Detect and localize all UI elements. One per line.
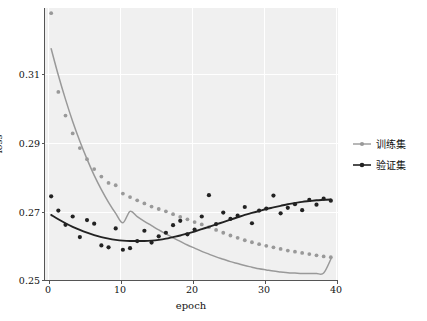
data-point [92, 167, 96, 171]
data-point [49, 194, 53, 198]
legend-label-validation: 验证集 [376, 157, 406, 172]
data-point [164, 231, 168, 235]
data-point [185, 232, 189, 236]
data-point [329, 255, 333, 259]
data-point [236, 236, 240, 240]
data-point [250, 221, 254, 225]
data-point [150, 205, 154, 209]
x-tick-label: 40 [330, 284, 342, 295]
data-point [322, 255, 326, 259]
data-point [157, 234, 161, 238]
data-point [64, 114, 68, 118]
data-point [99, 175, 103, 179]
data-point [142, 202, 146, 206]
data-point [236, 214, 240, 218]
data-point [135, 239, 139, 243]
data-point [300, 208, 304, 212]
data-point [250, 240, 254, 244]
trend-line [51, 49, 331, 274]
data-point [178, 219, 182, 223]
x-tick-label: 10 [114, 284, 126, 295]
data-point [329, 199, 333, 203]
data-point [221, 210, 225, 214]
trend-line [51, 200, 331, 242]
data-point [286, 249, 290, 253]
data-point [78, 146, 82, 150]
legend-item-train: 训练集 [352, 136, 406, 151]
data-point [314, 203, 318, 207]
data-point [49, 11, 53, 15]
data-point [157, 207, 161, 211]
data-point [171, 223, 175, 227]
data-point [106, 245, 110, 249]
x-tick-label: 0 [45, 284, 51, 295]
legend-swatch-validation-icon [352, 160, 372, 170]
data-point [307, 198, 311, 202]
data-point [315, 253, 319, 257]
data-point [279, 247, 283, 251]
legend-item-validation: 验证集 [352, 157, 406, 172]
data-point [271, 193, 275, 197]
data-point [264, 244, 268, 248]
y-tick-label: 0.25 [0, 275, 40, 286]
data-point [286, 206, 290, 210]
data-point [56, 208, 60, 212]
data-point [149, 241, 153, 245]
x-axis-label: epoch [176, 300, 206, 311]
data-point [78, 235, 82, 239]
data-point [171, 212, 175, 216]
data-point [128, 195, 132, 199]
data-point [228, 217, 232, 221]
data-point [121, 192, 125, 196]
chart-legend: 训练集 验证集 [352, 136, 406, 172]
data-point [114, 226, 118, 230]
data-point [221, 231, 225, 235]
data-point [178, 215, 182, 219]
data-point [192, 227, 196, 231]
data-point [229, 234, 233, 238]
data-point [279, 211, 283, 215]
data-point [300, 251, 304, 255]
data-point [200, 223, 204, 227]
x-tick-label: 20 [186, 284, 198, 295]
data-point [264, 207, 268, 211]
data-point [186, 217, 190, 221]
y-tick-label: 0.31 [0, 69, 40, 80]
data-point [71, 214, 75, 218]
data-point [121, 248, 125, 252]
legend-label-train: 训练集 [376, 136, 406, 151]
data-point [243, 238, 247, 242]
data-point [307, 252, 311, 256]
data-point [200, 214, 204, 218]
data-point [293, 202, 297, 206]
series-validation [49, 193, 333, 252]
data-point [85, 157, 89, 161]
data-point [99, 243, 103, 247]
data-point [107, 181, 111, 185]
x-tick-label: 30 [258, 284, 270, 295]
figure-canvas: 0.31 0.29 0.27 0.25 0 10 20 30 40 loss e… [0, 0, 427, 321]
data-point [128, 246, 132, 250]
data-point [193, 220, 197, 224]
y-tick-label: 0.27 [0, 207, 40, 218]
data-point [85, 218, 89, 222]
y-axis-label: loss [0, 135, 4, 154]
data-point [135, 198, 139, 202]
data-point [92, 222, 96, 226]
chart-plot [44, 8, 338, 281]
data-point [272, 245, 276, 249]
data-point [114, 183, 118, 187]
legend-swatch-train-icon [352, 139, 372, 149]
data-point [322, 197, 326, 201]
data-point [71, 132, 75, 136]
data-point [243, 205, 247, 209]
data-point [257, 208, 261, 212]
data-point [63, 223, 67, 227]
data-point [142, 229, 146, 233]
data-point [293, 250, 297, 254]
data-point [164, 209, 168, 213]
data-point [207, 193, 211, 197]
data-point [214, 222, 218, 226]
data-point [56, 90, 60, 94]
data-point [257, 242, 261, 246]
